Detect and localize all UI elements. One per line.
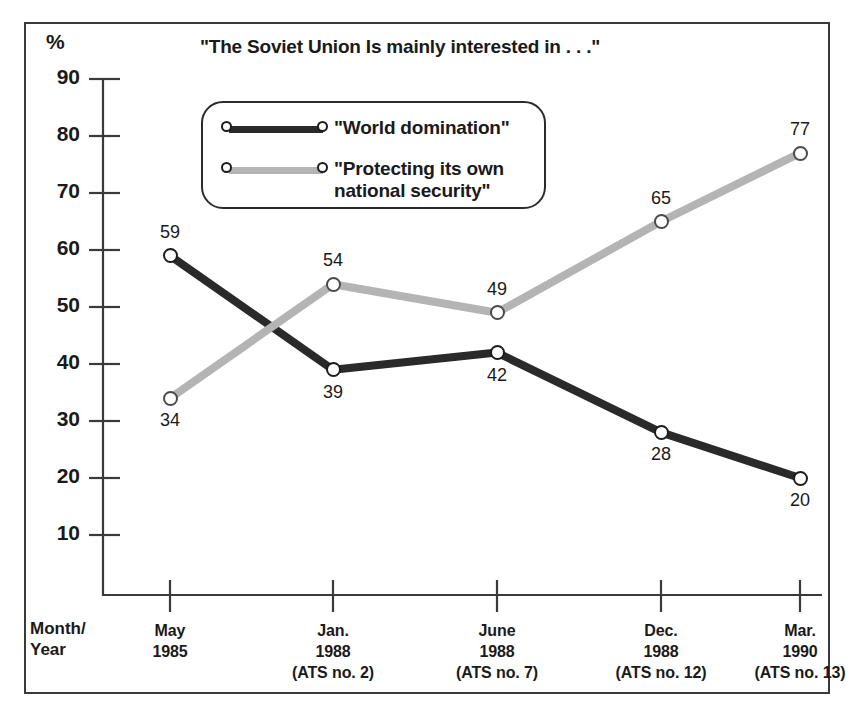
x-axis-tick-label: Jan. 1988 (ATS no. 2): [258, 620, 408, 683]
data-point-value-label: 49: [474, 279, 520, 300]
y-axis-unit-label: %: [46, 30, 65, 54]
y-axis-tick-label: 70: [24, 179, 80, 203]
data-point-marker: [326, 362, 341, 377]
data-point-marker: [326, 277, 341, 292]
y-axis-tick-label: 40: [24, 350, 80, 374]
legend-marker-left: [221, 121, 232, 132]
data-point-value-label: 42: [474, 365, 520, 386]
data-point-value-label: 28: [638, 444, 684, 465]
data-point-marker: [163, 248, 178, 263]
data-point-value-label: 20: [777, 490, 823, 511]
data-point-value-label: 34: [147, 410, 193, 431]
data-point-marker: [163, 391, 178, 406]
legend-marker-right: [317, 121, 328, 132]
data-point-marker: [654, 214, 669, 229]
page-title: "The Soviet Union Is mainly interested i…: [150, 36, 650, 58]
legend-marker-left: [221, 162, 232, 173]
data-point-marker: [793, 146, 808, 161]
legend-label-world-domination: "World domination": [334, 117, 510, 139]
data-point-value-label: 77: [777, 119, 823, 140]
y-axis-tick-label: 50: [24, 293, 80, 317]
y-axis-ticks: [89, 79, 120, 535]
data-point-marker: [654, 425, 669, 440]
x-axis-tick-label: June 1988 (ATS no. 7): [422, 620, 572, 683]
chart-legend: "World domination" "Protecting its own n…: [201, 101, 546, 209]
data-point-value-label: 39: [310, 382, 356, 403]
y-axis-tick-label: 20: [24, 464, 80, 488]
data-point-value-label: 54: [310, 250, 356, 271]
legend-label-national-security: "Protecting its own national security": [334, 158, 504, 202]
legend-marker-right: [317, 162, 328, 173]
y-axis-tick-label: 90: [24, 65, 80, 89]
data-point-value-label: 65: [638, 188, 684, 209]
data-point-marker: [793, 471, 808, 486]
y-axis-tick-label: 10: [24, 521, 80, 545]
legend-swatch-dark: [217, 118, 334, 140]
y-axis-tick-label: 60: [24, 236, 80, 260]
legend-line-dark: [229, 126, 323, 133]
x-axis-tick-label: Dec. 1988 (ATS no. 12): [586, 620, 736, 683]
legend-item-world-domination[interactable]: "World domination": [217, 117, 510, 140]
y-axis-tick-label: 30: [24, 407, 80, 431]
x-axis-tick-label: May 1985: [95, 620, 245, 662]
legend-item-national-security[interactable]: "Protecting its own national security": [217, 158, 504, 202]
legend-swatch-light: [217, 159, 334, 181]
legend-line-light: [229, 167, 323, 174]
data-point-marker: [490, 305, 505, 320]
data-point-value-label: 59: [147, 222, 193, 243]
data-point-marker: [490, 345, 505, 360]
y-axis-tick-label: 80: [24, 122, 80, 146]
x-axis-tick-label: Mar. 1990 (ATS no. 13): [725, 620, 852, 683]
